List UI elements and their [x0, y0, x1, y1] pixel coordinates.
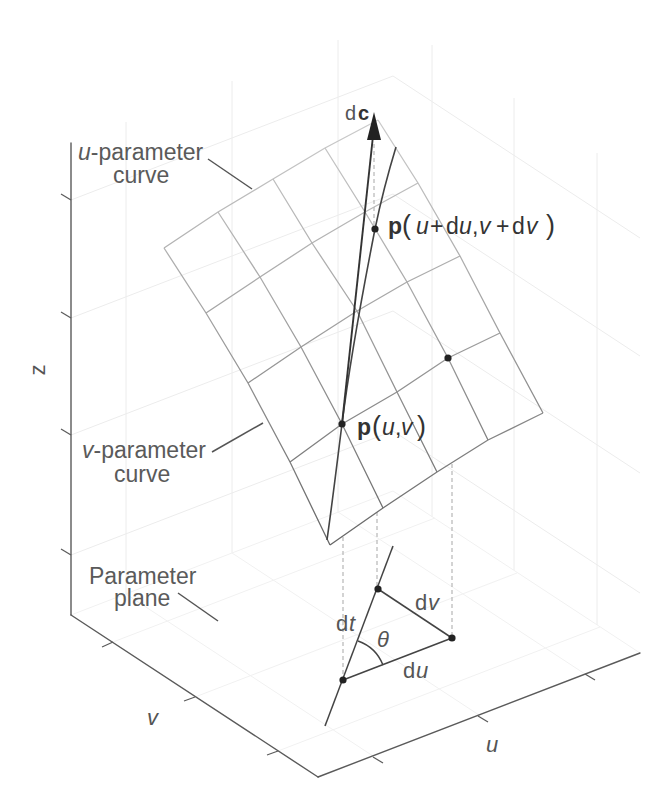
dc-label: dc: [345, 102, 369, 124]
parameter-plane-triangle: dt θ dv du: [325, 546, 456, 726]
v-axis-ticks: [102, 642, 278, 755]
parameter-plane-leader: [178, 593, 218, 621]
v-parameter-curve-label: v-parameter: [82, 437, 206, 463]
point-p-uv: [338, 420, 345, 427]
v-parameter-curve-label-line2: curve: [114, 461, 170, 487]
du-edge: [343, 638, 452, 680]
u-axis-label: u: [486, 732, 498, 757]
z-axis-ticks: [61, 194, 71, 555]
parametric-surface-diagram: z v u dt: [0, 0, 664, 811]
z-axis-label: z: [25, 365, 50, 376]
theta-label: θ: [377, 627, 389, 652]
dc-vector-shaft: [342, 136, 373, 424]
point-p-uv-shifted: [371, 225, 378, 232]
v-axis-label: v: [147, 705, 160, 730]
v-curve-leader: [212, 423, 263, 452]
dt-label: dt: [336, 611, 356, 636]
du-label: du: [403, 658, 428, 683]
plane-point-origin: [339, 676, 346, 683]
p-uv-label: p ( u , v ): [357, 411, 426, 441]
parameter-plane-label-line2: plane: [114, 585, 170, 611]
plane-point-du: [448, 634, 455, 641]
plane-point-dt: [374, 585, 381, 592]
parametric-surface: [164, 120, 543, 545]
point-grid-vertex: [444, 354, 451, 361]
p-uv-shifted-label: p ( u + d u , v + d v ): [388, 210, 555, 240]
u-curve-leader: [208, 159, 252, 189]
u-axis-ticks: [373, 674, 595, 763]
u-parameter-curve-label-line2: curve: [113, 162, 169, 188]
dv-label: dv: [415, 590, 441, 615]
